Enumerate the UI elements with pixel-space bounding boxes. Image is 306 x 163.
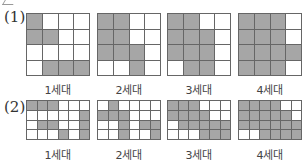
- empty-cell: [281, 101, 291, 110]
- filled-cell: [184, 61, 199, 76]
- filled-cell: [74, 61, 89, 76]
- empty-cell: [27, 45, 42, 60]
- empty-cell: [59, 45, 74, 60]
- part-1-label: (1): [4, 8, 25, 26]
- tick-mark: [2, 0, 17, 5]
- grid-part2-gen4: [238, 100, 302, 140]
- filled-cell: [221, 121, 231, 130]
- filled-cell: [281, 130, 291, 139]
- filled-cell: [80, 130, 90, 139]
- generation-label: 2세대: [99, 81, 159, 97]
- filled-cell: [271, 45, 286, 60]
- filled-cell: [210, 130, 220, 139]
- filled-cell: [179, 101, 189, 110]
- filled-cell: [281, 121, 291, 130]
- filled-cell: [250, 121, 260, 130]
- filled-cell: [292, 130, 302, 139]
- filled-cell: [200, 61, 215, 76]
- filled-cell: [239, 61, 254, 76]
- filled-cell: [271, 30, 286, 45]
- filled-cell: [109, 111, 119, 120]
- empty-cell: [98, 101, 108, 110]
- filled-cell: [48, 101, 58, 110]
- empty-cell: [43, 14, 58, 29]
- filled-cell: [271, 101, 281, 110]
- empty-cell: [151, 101, 161, 110]
- filled-cell: [59, 130, 69, 139]
- empty-cell: [130, 130, 140, 139]
- empty-cell: [140, 101, 150, 110]
- empty-cell: [145, 61, 160, 76]
- empty-cell: [140, 130, 150, 139]
- filled-cell: [189, 121, 199, 130]
- filled-cell: [151, 130, 161, 139]
- generation-label: 1세대: [28, 81, 88, 97]
- empty-cell: [80, 101, 90, 110]
- generation-label: 1세대: [28, 146, 88, 162]
- empty-cell: [239, 130, 249, 139]
- filled-cell: [98, 14, 113, 29]
- empty-cell: [221, 101, 231, 110]
- empty-cell: [145, 30, 160, 45]
- filled-cell: [281, 111, 291, 120]
- empty-cell: [168, 61, 183, 76]
- empty-cell: [130, 101, 140, 110]
- empty-cell: [43, 45, 58, 60]
- empty-cell: [292, 101, 302, 110]
- empty-cell: [286, 14, 301, 29]
- filled-cell: [260, 130, 270, 139]
- empty-cell: [179, 130, 189, 139]
- empty-cell: [69, 111, 79, 120]
- filled-cell: [168, 14, 183, 29]
- filled-cell: [140, 121, 150, 130]
- filled-cell: [98, 111, 108, 120]
- empty-cell: [69, 121, 79, 130]
- grid-part1-gen2: [97, 13, 161, 76]
- filled-cell: [200, 130, 210, 139]
- filled-cell: [239, 30, 254, 45]
- generation-label: 3세대: [169, 81, 229, 97]
- part-2-label: (2): [4, 98, 25, 116]
- filled-cell: [168, 101, 178, 110]
- filled-cell: [48, 121, 58, 130]
- filled-cell: [114, 45, 129, 60]
- empty-cell: [140, 111, 150, 120]
- empty-cell: [200, 14, 215, 29]
- empty-cell: [69, 101, 79, 110]
- empty-cell: [286, 30, 301, 45]
- empty-cell: [145, 45, 160, 60]
- filled-cell: [189, 101, 199, 110]
- empty-cell: [130, 30, 145, 45]
- filled-cell: [80, 121, 90, 130]
- empty-cell: [59, 14, 74, 29]
- filled-cell: [43, 61, 58, 76]
- filled-cell: [200, 30, 215, 45]
- empty-cell: [69, 130, 79, 139]
- empty-cell: [48, 130, 58, 139]
- empty-cell: [145, 14, 160, 29]
- filled-cell: [239, 45, 254, 60]
- filled-cell: [286, 45, 301, 60]
- filled-cell: [250, 101, 260, 110]
- filled-cell: [271, 130, 281, 139]
- empty-cell: [250, 130, 260, 139]
- filled-cell: [255, 61, 270, 76]
- filled-cell: [114, 14, 129, 29]
- filled-cell: [119, 111, 129, 120]
- filled-cell: [38, 101, 48, 110]
- filled-cell: [184, 45, 199, 60]
- filled-cell: [119, 121, 129, 130]
- empty-cell: [215, 30, 230, 45]
- filled-cell: [98, 30, 113, 45]
- filled-cell: [168, 45, 183, 60]
- filled-cell: [27, 14, 42, 29]
- empty-cell: [59, 111, 69, 120]
- filled-cell: [184, 14, 199, 29]
- filled-cell: [27, 30, 42, 45]
- empty-cell: [59, 101, 69, 110]
- filled-cell: [130, 61, 145, 76]
- empty-cell: [27, 111, 37, 120]
- filled-cell: [292, 121, 302, 130]
- empty-cell: [215, 14, 230, 29]
- empty-cell: [38, 111, 48, 120]
